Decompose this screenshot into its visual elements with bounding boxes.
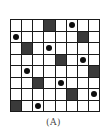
grid-cell (78, 78, 88, 89)
grid-cell (44, 78, 54, 89)
grid-cell (78, 43, 88, 54)
grid-cell (44, 43, 54, 54)
grid-cell (56, 20, 66, 31)
grid-cell (78, 66, 88, 77)
grid-cell (89, 32, 99, 43)
grid-cell (89, 101, 99, 112)
grid-cell (67, 43, 77, 54)
dot-icon (35, 103, 41, 109)
grid-cell-dark (89, 66, 99, 77)
grid-cell-dark (22, 43, 32, 54)
dot-icon (46, 45, 52, 51)
grid-cell (67, 20, 77, 31)
grid-cell (22, 101, 32, 112)
grid-cell (44, 32, 54, 43)
grid-cell (11, 43, 21, 54)
grid-cell (56, 78, 66, 89)
grid-cell (11, 55, 21, 66)
grid-cell (33, 101, 43, 112)
grid-cell (44, 55, 54, 66)
grid-cell (11, 32, 21, 43)
dot-icon (58, 80, 64, 86)
grid-cell (78, 89, 88, 100)
grid-cell (33, 89, 43, 100)
grid-cell (67, 101, 77, 112)
grid-cell (89, 43, 99, 54)
dot-icon (80, 57, 86, 63)
grid-cell (89, 89, 99, 100)
dot-icon (69, 22, 75, 28)
dot-icon (13, 34, 19, 40)
grid-cell (67, 78, 77, 89)
grid-cell (56, 101, 66, 112)
grid-cell-dark (11, 101, 21, 112)
grid-cell (33, 43, 43, 54)
grid-cell (22, 66, 32, 77)
grid-cell (89, 20, 99, 31)
grid-cell (22, 32, 32, 43)
grid-cell (44, 89, 54, 100)
grid-cell (56, 66, 66, 77)
grid-cell (78, 20, 88, 31)
grid-cell (78, 55, 88, 66)
grid-cell-dark (56, 55, 66, 66)
grid-cell (44, 66, 54, 77)
dot-icon (24, 68, 30, 74)
grid-cell (33, 55, 43, 66)
grid-cell-dark (44, 20, 54, 31)
grid-cell (11, 66, 21, 77)
grid-cell (67, 32, 77, 43)
grid-cell (56, 32, 66, 43)
grid-cell (67, 55, 77, 66)
grid-cell (44, 101, 54, 112)
grid-cell (89, 55, 99, 66)
grid-cell (11, 89, 21, 100)
grid-cell-dark (78, 32, 88, 43)
grid-cell (22, 55, 32, 66)
grid-cell (56, 43, 66, 54)
grid-cell (33, 66, 43, 77)
grid-cell-dark (33, 78, 43, 89)
grid-cell (67, 66, 77, 77)
grid-cell (22, 20, 32, 31)
grid-cell (11, 78, 21, 89)
grid-cell (22, 78, 32, 89)
puzzle-grid (10, 19, 100, 112)
grid-cell (33, 20, 43, 31)
grid-cell-dark (67, 89, 77, 100)
grid-cell (33, 32, 43, 43)
figure-caption: (A) (0, 117, 107, 127)
grid-cell (78, 101, 88, 112)
dot-icon (91, 91, 97, 97)
grid-cell (56, 89, 66, 100)
grid-cell (22, 89, 32, 100)
grid-cell (89, 78, 99, 89)
grid-cell (11, 20, 21, 31)
